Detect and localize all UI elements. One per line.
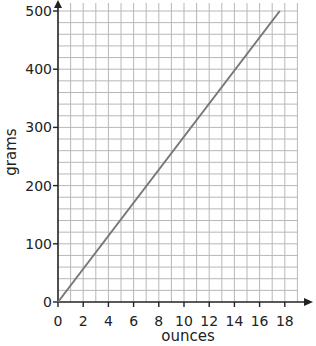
y-axis-title: grams	[2, 128, 20, 175]
x-tick-label: 4	[104, 313, 113, 329]
y-tick-label: 400	[25, 61, 52, 77]
x-tick-label: 18	[276, 313, 294, 329]
y-tick-label: 200	[25, 178, 52, 194]
x-axis-title: ounces	[161, 327, 215, 345]
conversion-chart: 0246810121416180100200300400500ouncesgra…	[0, 0, 316, 346]
y-tick-label: 0	[43, 294, 52, 310]
y-axis-arrow-icon	[54, 0, 62, 8]
conversion-line	[58, 11, 280, 302]
y-tick-label: 300	[25, 119, 52, 135]
y-tick-label: 100	[25, 236, 52, 252]
x-tick-label: 14	[225, 313, 243, 329]
x-tick-label: 0	[54, 313, 63, 329]
x-tick-label: 6	[129, 313, 138, 329]
x-tick-label: 16	[251, 313, 269, 329]
x-tick-label: 2	[79, 313, 88, 329]
x-axis-arrow-icon	[304, 298, 313, 306]
y-tick-label: 500	[25, 3, 52, 19]
